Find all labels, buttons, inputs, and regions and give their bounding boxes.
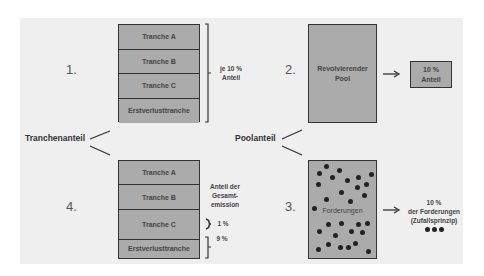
fork-line-up: [90, 131, 110, 139]
fork-line-down: [282, 146, 302, 155]
connector-lines: [0, 0, 484, 276]
fork-line-down: [90, 146, 110, 155]
receivables-label: Forderungen: [322, 206, 362, 215]
brace-icon: [206, 219, 211, 229]
bracket-icon: [205, 237, 211, 258]
bracket-icon: [205, 24, 211, 122]
fork-line-up: [282, 130, 302, 139]
